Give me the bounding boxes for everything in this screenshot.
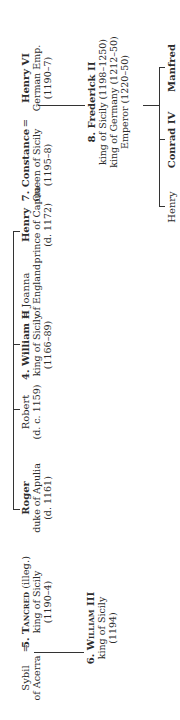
tick: [159, 206, 165, 207]
tick: [159, 67, 165, 68]
person-name: Robert: [20, 384, 31, 439]
person-title: king of Sicily: [31, 556, 42, 648]
person-manfred: Manfred: [166, 44, 177, 92]
tick: [13, 409, 20, 410]
tick: [13, 231, 20, 232]
person-william-iii: 6. William III king of Sicily (1194): [85, 592, 118, 664]
person-robert: Robert (d. c. 1159): [20, 384, 42, 439]
person-name: Sybil: [20, 656, 31, 701]
person-henry-son: Henry: [166, 191, 177, 223]
person-name: 5. Tancred (illeg.): [20, 556, 31, 648]
person-title: Queen of Sicily: [31, 129, 42, 202]
tick: [13, 509, 20, 510]
person-henry-vi: Henry VI German Emp. (1190–7): [20, 45, 53, 112]
tick: [159, 139, 165, 140]
person-title: Emperor (1220–50): [119, 36, 130, 168]
person-dates: (1190–4): [42, 556, 53, 648]
person-constance: 7. Constance Queen of Sicily (1195–8): [20, 129, 53, 202]
person-name: Henry: [166, 191, 177, 223]
person-name: 6. William III: [85, 592, 96, 664]
person-dates: (1194): [107, 592, 118, 664]
person-name: Henry VI: [20, 45, 31, 112]
descent-line: [38, 105, 85, 106]
person-william-ii: 4. William II king of Sicily (1166–89): [20, 310, 53, 380]
tick: [13, 344, 20, 345]
person-tancred: 5. Tancred (illeg.) king of Sicily (1190…: [20, 556, 53, 648]
person-name: 7. Constance: [20, 129, 31, 202]
person-title: of England: [31, 264, 42, 316]
person-dates: (d. 1161): [42, 463, 53, 533]
sibling-line: [159, 67, 160, 207]
descent-line: [34, 652, 84, 653]
person-dates: (1166–89): [42, 310, 53, 380]
person-name: Roger: [20, 463, 31, 533]
person-roger: Roger duke of Apulia (d. 1161): [20, 463, 53, 533]
person-joanna: Joanna of England: [20, 264, 42, 316]
person-title: king of Sicily (1198–1250): [97, 36, 108, 168]
person-sybil: Sybil of Acerra: [20, 656, 42, 701]
person-title: German Emp.: [31, 45, 42, 112]
person-frederick-ii: 8. Frederick II king of Sicily (1198–125…: [86, 36, 130, 168]
person-title: king of Sicily: [31, 310, 42, 380]
sibling-line: [13, 231, 14, 510]
person-title: duke of Apulia: [31, 463, 42, 533]
person-dates: (1190–7): [42, 45, 53, 112]
person-name: 4. William II: [20, 310, 31, 380]
marriage-symbol: =: [20, 119, 31, 127]
person-title: king of Germany (1212–50): [108, 36, 119, 168]
person-title: of Acerra: [31, 656, 42, 701]
person-dates: (1195–8): [42, 129, 53, 202]
person-dates: (d. c. 1159): [31, 384, 42, 439]
genealogy-diagram: Sybil of Acerra = 5. Tancred (illeg.) ki…: [0, 0, 180, 720]
descent-line: [143, 105, 159, 106]
person-name: Manfred: [166, 44, 177, 92]
person-name: Joanna: [20, 264, 31, 316]
person-name: Conrad IV: [166, 112, 177, 169]
person-name: 8. Frederick II: [86, 36, 97, 168]
person-conrad-iv: Conrad IV: [166, 112, 177, 169]
person-title: king of Sicily: [96, 592, 107, 664]
